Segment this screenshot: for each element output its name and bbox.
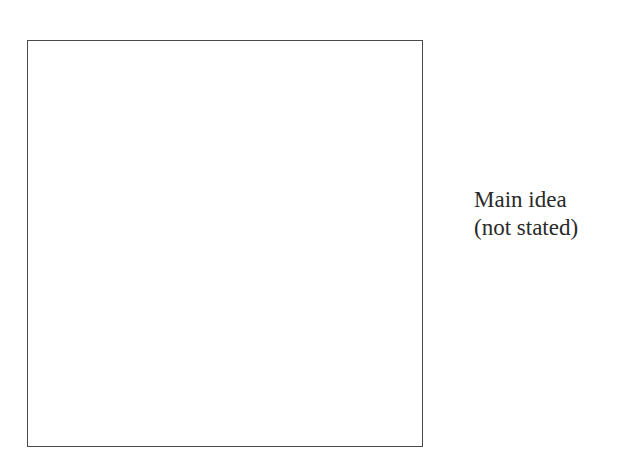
- main-idea-label-line-1: Main idea: [474, 186, 578, 214]
- main-idea-label: Main idea (not stated): [474, 186, 578, 242]
- empty-box: [27, 40, 423, 447]
- main-idea-label-line-2: (not stated): [474, 214, 578, 242]
